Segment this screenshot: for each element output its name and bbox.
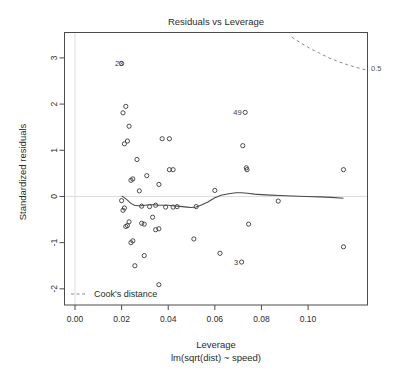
x-tick-label: 0.04 bbox=[160, 314, 177, 324]
cooks-contour-label: 0.5 bbox=[371, 64, 381, 73]
point-label: 49 bbox=[233, 108, 241, 117]
y-tick-label: 1 bbox=[49, 148, 59, 153]
y-tick-label: 3 bbox=[49, 55, 59, 60]
x-tick-label: 0.00 bbox=[67, 314, 84, 324]
chart-canvas: Residuals vs Leverage 0.000.020.040.060.… bbox=[0, 0, 399, 383]
residuals-vs-leverage-plot: Residuals vs Leverage 0.000.020.040.060.… bbox=[0, 0, 399, 383]
y-tick-label: -2 bbox=[49, 285, 59, 293]
x-axis-label: Leverage bbox=[196, 339, 236, 350]
x-tick-label: 0.02 bbox=[113, 314, 130, 324]
x-tick-label: 0.08 bbox=[253, 314, 270, 324]
y-tick-label: 2 bbox=[49, 101, 59, 106]
legend-label-cooks-distance: Cook's distance bbox=[94, 289, 157, 299]
point-label: 23 bbox=[115, 59, 123, 68]
x-axis-sublabel: lm(sqrt(dist) ~ speed) bbox=[171, 352, 261, 363]
y-tick-label: -1 bbox=[49, 239, 59, 247]
x-tick-label: 0.06 bbox=[207, 314, 224, 324]
y-tick-label: 0 bbox=[49, 194, 59, 199]
point-label: 3 bbox=[234, 258, 238, 267]
y-axis-label: Standardized residuals bbox=[17, 123, 28, 220]
x-tick-label: 0.10 bbox=[300, 314, 317, 324]
chart-title: Residuals vs Leverage bbox=[168, 16, 264, 27]
